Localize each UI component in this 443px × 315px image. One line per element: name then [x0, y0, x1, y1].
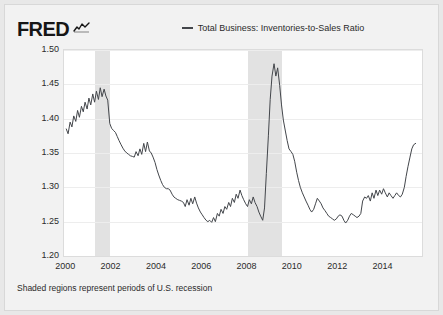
y-axis-tick-label: 1.35	[19, 147, 59, 157]
x-axis-tick-label: 2002	[91, 261, 131, 271]
x-axis-tick-label: 2008	[227, 261, 267, 271]
plot-area	[63, 49, 423, 257]
x-axis-tick-label: 2010	[272, 261, 312, 271]
y-axis-tick-label: 1.45	[19, 78, 59, 88]
y-axis-tick-label: 1.25	[19, 216, 59, 226]
series-line-total-business-inventories-to-sales-ratio	[66, 64, 415, 223]
y-axis-tick-label: 1.20	[19, 250, 59, 260]
y-axis-tick-label: 1.40	[19, 113, 59, 123]
fred-logo: FRED	[17, 19, 90, 39]
chart-header: FRED Total Business: Inventories-to-Sale…	[5, 5, 440, 45]
chart-legend: Total Business: Inventories-to-Sales Rat…	[123, 23, 423, 33]
fred-chart-card: FRED Total Business: Inventories-to-Sale…	[4, 4, 439, 311]
y-axis-tick-label: 1.50	[19, 44, 59, 54]
y-axis-tick-label: 1.30	[19, 181, 59, 191]
x-axis-tick-label: 2012	[317, 261, 357, 271]
x-axis-tick-label: 2006	[181, 261, 221, 271]
fred-squiggle-icon	[73, 19, 90, 37]
plot-wrapper: (Ratio) 1.501.451.401.351.301.251.20 200…	[63, 49, 423, 257]
fred-wordmark: FRED	[17, 19, 69, 39]
series-line-chart	[64, 50, 422, 256]
legend-color-swatch	[182, 27, 193, 29]
x-axis-tick-label: 2014	[362, 261, 402, 271]
x-axis-tick-label: 2004	[136, 261, 176, 271]
recession-footnote: Shaded regions represent periods of U.S.…	[17, 283, 212, 293]
legend-item-label: Total Business: Inventories-to-Sales Rat…	[198, 23, 365, 33]
x-axis-tick-label: 2000	[45, 261, 85, 271]
